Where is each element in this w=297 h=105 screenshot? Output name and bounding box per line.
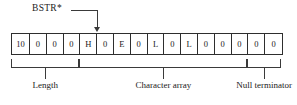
byte-cell-row: 10000H0E0L0L00000	[11, 33, 283, 55]
group-label: Null terminator	[204, 80, 297, 90]
group-tick	[45, 68, 46, 79]
group-bracket	[11, 59, 79, 68]
pointer-leader-horizontal	[71, 10, 98, 11]
byte-cell: 0	[232, 34, 249, 54]
bstr-layout-diagram: BSTR* 10000H0E0L0L00000 LengthCharacter …	[0, 0, 297, 105]
byte-cell: L	[148, 34, 165, 54]
byte-cell: 0	[97, 34, 114, 54]
down-arrow-icon	[94, 27, 100, 32]
byte-cell: E	[114, 34, 131, 54]
group-tick	[264, 68, 265, 79]
byte-cell: 0	[215, 34, 232, 54]
byte-cell: 0	[131, 34, 148, 54]
byte-cell: 0	[265, 34, 282, 54]
group-label: Length	[0, 80, 105, 90]
byte-cell: 0	[47, 34, 64, 54]
byte-cell: 0	[30, 34, 47, 54]
byte-cell: H	[80, 34, 97, 54]
byte-cell: 0	[198, 34, 215, 54]
byte-cell: 0	[164, 34, 181, 54]
group-bracket	[79, 59, 247, 68]
byte-cell: 0	[248, 34, 265, 54]
byte-cell: 0	[64, 34, 81, 54]
byte-cell: 10	[12, 34, 30, 54]
group-bracket	[247, 59, 281, 68]
group-tick	[163, 68, 164, 79]
bstr-pointer-label: BSTR*	[32, 3, 62, 13]
byte-cell: L	[181, 34, 198, 54]
